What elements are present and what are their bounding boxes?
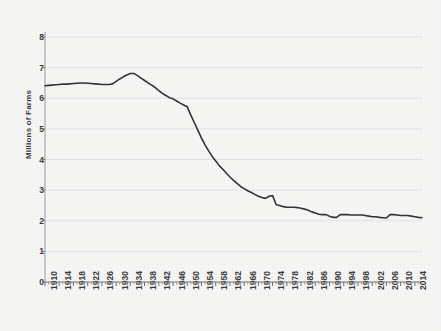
data-line-number-of-farms <box>45 73 422 218</box>
gridlines <box>45 37 422 251</box>
chart-figure: Millions of Farms 012345678 191019141918… <box>0 0 441 331</box>
axis-lines <box>45 32 422 282</box>
x-axis-tick-marks <box>45 282 422 286</box>
plot-area <box>0 0 441 331</box>
